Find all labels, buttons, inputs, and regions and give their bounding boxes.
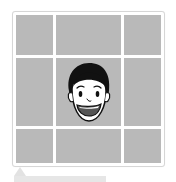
image-grid-frame: [12, 11, 165, 167]
grid-cell-2-2[interactable]: [56, 58, 121, 126]
grid-cell-1-2[interactable]: [56, 15, 121, 55]
grid-cell-1-1[interactable]: [16, 15, 53, 55]
grid-cell-2-3[interactable]: [124, 58, 161, 126]
triangle-up-icon[interactable]: [14, 167, 26, 176]
cartoon-face-icon: [65, 61, 112, 123]
grid-cell-1-3[interactable]: [124, 15, 161, 55]
slider-track[interactable]: [14, 176, 106, 182]
grid-cell-3-1[interactable]: [16, 129, 53, 163]
grid-cell-3-3[interactable]: [124, 129, 161, 163]
grid-cell-2-1[interactable]: [16, 58, 53, 126]
grid-cell-3-2[interactable]: [56, 129, 121, 163]
